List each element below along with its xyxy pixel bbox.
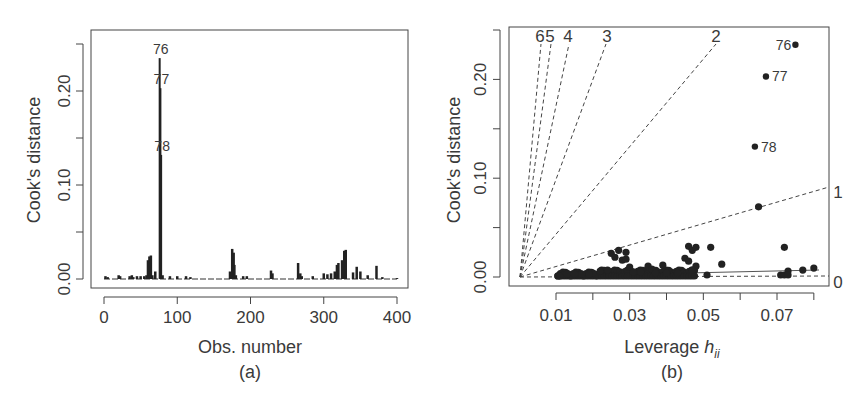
data-point bbox=[703, 271, 710, 278]
point-label: 76 bbox=[776, 37, 792, 53]
panel-a-x-axis: 0100200300400 bbox=[99, 297, 411, 327]
x-tick-label: 0.03 bbox=[613, 306, 646, 325]
labeled-point bbox=[763, 73, 769, 79]
x-tick-label: 0 bbox=[99, 308, 108, 327]
panel-a-y-label: Cook's distance bbox=[24, 97, 44, 224]
y-tick-label: 0.20 bbox=[55, 74, 74, 107]
data-point bbox=[615, 247, 622, 254]
x-tick-label: 0.05 bbox=[687, 306, 720, 325]
point-label: 78 bbox=[154, 138, 170, 154]
panel-b-contour-lines: 6543210 bbox=[520, 27, 843, 292]
panel-b-annotations: 767778 bbox=[761, 37, 792, 155]
contour-line bbox=[520, 44, 606, 277]
data-point bbox=[799, 266, 806, 273]
data-point bbox=[563, 270, 570, 277]
data-point bbox=[637, 268, 644, 275]
panel-b-x-label-subscript: ii bbox=[714, 347, 720, 361]
data-point bbox=[755, 203, 762, 210]
data-point bbox=[611, 254, 618, 261]
data-point bbox=[685, 258, 692, 265]
x-tick-label: 0.01 bbox=[539, 306, 572, 325]
point-label: 78 bbox=[761, 139, 777, 155]
data-point bbox=[652, 269, 659, 276]
y-tick-label: 0.20 bbox=[471, 63, 490, 96]
panel-b-caption: (b) bbox=[661, 362, 683, 382]
data-point bbox=[586, 270, 593, 277]
labeled-point bbox=[792, 42, 798, 48]
panel-a-plot-box bbox=[91, 30, 408, 288]
data-point bbox=[622, 256, 629, 263]
y-tick-label: 0.10 bbox=[55, 168, 74, 201]
contour-line bbox=[520, 44, 569, 277]
panel-a-cooks-distance-index-plot: 0.000.100.20 0100200300400 767778 Cook's… bbox=[24, 30, 411, 382]
data-point bbox=[630, 268, 637, 275]
contour-label: 2 bbox=[711, 27, 720, 46]
data-point bbox=[578, 270, 585, 277]
x-tick-label: 300 bbox=[310, 308, 338, 327]
data-point bbox=[663, 269, 670, 276]
data-point bbox=[718, 261, 725, 268]
data-point bbox=[692, 244, 699, 251]
panel-b-y-axis: 0.000.100.20 bbox=[471, 30, 500, 294]
point-label: 77 bbox=[772, 68, 788, 84]
panel-a-bars bbox=[104, 58, 397, 279]
x-tick-label: 400 bbox=[383, 308, 411, 327]
contour-label: 5 bbox=[545, 27, 554, 46]
y-tick-label: 0.10 bbox=[471, 162, 490, 195]
panel-a-annotations: 767778 bbox=[153, 41, 170, 154]
panel-b-x-label: Leverage hii bbox=[624, 337, 720, 361]
contour-label: 0 bbox=[833, 273, 842, 292]
figure: 0.000.100.20 0100200300400 767778 Cook's… bbox=[0, 0, 867, 399]
panel-b-x-axis: 0.010.030.050.07 bbox=[539, 293, 813, 325]
data-point bbox=[784, 271, 791, 278]
contour-line bbox=[520, 44, 551, 277]
contour-label: 3 bbox=[602, 27, 611, 46]
y-tick-label: 0.00 bbox=[55, 262, 74, 295]
labeled-point bbox=[752, 143, 758, 149]
panel-b-x-label-italic: h bbox=[704, 337, 714, 357]
panel-b-x-label-main: Leverage bbox=[624, 337, 704, 357]
panel-a-caption: (a) bbox=[239, 362, 261, 382]
data-point bbox=[689, 266, 696, 273]
panel-a-y-axis: 0.000.100.20 bbox=[55, 44, 83, 296]
panel-a-x-label: Obs. number bbox=[198, 337, 302, 357]
data-point bbox=[659, 262, 666, 269]
panel-b-cooks-vs-leverage-plot: 0.000.100.20 0.010.030.050.07 6543210 76… bbox=[444, 27, 843, 382]
panel-b-y-label: Cook's distance bbox=[444, 97, 464, 224]
data-point bbox=[707, 244, 714, 251]
point-label: 77 bbox=[154, 71, 170, 87]
point-label: 76 bbox=[153, 41, 169, 57]
data-point bbox=[674, 269, 681, 276]
data-point bbox=[556, 272, 563, 279]
contour-label: 6 bbox=[535, 27, 544, 46]
y-tick-label: 0.00 bbox=[471, 260, 490, 293]
data-point bbox=[571, 270, 578, 277]
data-point bbox=[597, 267, 604, 274]
contour-label: 1 bbox=[833, 183, 842, 202]
contour-label: 4 bbox=[563, 27, 572, 46]
contour-line bbox=[520, 44, 541, 277]
x-tick-label: 200 bbox=[236, 308, 264, 327]
data-point bbox=[622, 249, 629, 256]
x-tick-label: 100 bbox=[163, 308, 191, 327]
contour-line bbox=[520, 44, 716, 277]
x-tick-label: 0.07 bbox=[760, 306, 793, 325]
data-point bbox=[810, 265, 817, 272]
data-point bbox=[781, 244, 788, 251]
contour-line bbox=[520, 187, 829, 277]
data-point bbox=[604, 266, 611, 273]
